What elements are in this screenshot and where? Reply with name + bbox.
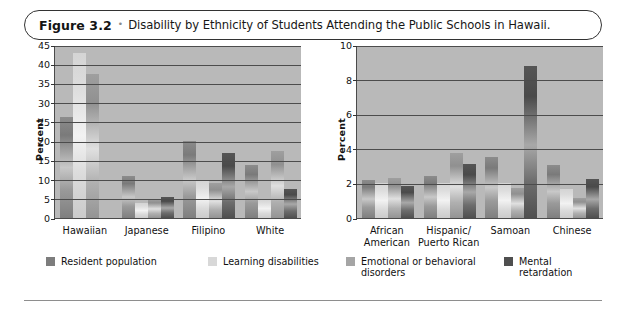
axis-tick — [51, 180, 55, 181]
y-axis-tick-label: 2 — [326, 180, 352, 190]
gridline — [357, 149, 603, 150]
figure-separator-dot: • — [118, 19, 123, 29]
chart-left-y-ticks: 051015202530354045 — [22, 46, 50, 251]
gridline — [55, 122, 301, 123]
axis-tick — [353, 46, 357, 47]
bar — [463, 164, 476, 218]
y-axis-tick-label: 40 — [24, 60, 50, 70]
bottom-divider — [24, 300, 602, 301]
bar-group — [117, 46, 179, 218]
bar — [547, 165, 560, 218]
y-axis-tick-label: 6 — [326, 110, 352, 120]
gridline — [357, 80, 603, 81]
bar — [498, 183, 511, 218]
bar — [209, 183, 222, 218]
bar — [161, 197, 174, 218]
bar — [135, 203, 148, 218]
gridline — [55, 46, 301, 47]
bar — [560, 189, 573, 218]
bar — [86, 74, 99, 218]
legend-item-emotional-behavioral-disorders: Emotional or behavioral disorders — [346, 256, 496, 278]
axis-tick — [353, 149, 357, 150]
bar — [73, 53, 86, 218]
bar — [401, 186, 414, 218]
axis-tick — [51, 219, 55, 220]
gridline — [55, 180, 301, 181]
gridline — [55, 84, 301, 85]
bar — [258, 199, 271, 218]
legend-swatch-icon — [504, 257, 513, 266]
legend-label: Emotional or behavioral disorders — [361, 256, 476, 278]
axis-tick — [353, 184, 357, 185]
bar — [485, 157, 498, 218]
chart-left-plot-area — [54, 46, 301, 219]
axis-tick — [51, 199, 55, 200]
y-axis-tick-label: 10 — [326, 41, 352, 51]
y-axis-tick-label: 8 — [326, 76, 352, 86]
axis-tick — [353, 115, 357, 116]
y-axis-tick-label: 15 — [24, 157, 50, 167]
gridline — [55, 142, 301, 143]
bar — [524, 66, 537, 218]
legend-item-mental-retardation: Mental retardation — [504, 256, 606, 278]
bar — [586, 179, 599, 218]
legend-label: Learning disabilities — [223, 256, 319, 267]
bar-group — [542, 46, 604, 218]
legend-swatch-icon — [46, 257, 55, 266]
legend-swatch-icon — [346, 257, 355, 266]
y-axis-tick-label: 0 — [24, 214, 50, 224]
bar — [375, 183, 388, 218]
chart-left-bars — [55, 46, 301, 218]
bar — [122, 176, 135, 218]
legend-label: Resident population — [61, 256, 157, 267]
chart-right: Percent 0246810 African AmericanHispanic… — [324, 46, 614, 251]
y-axis-tick-label: 20 — [24, 137, 50, 147]
bar — [60, 117, 73, 218]
chart-left: Percent 051015202530354045 HawaiianJapan… — [22, 46, 312, 251]
gridline — [55, 65, 301, 66]
bar — [148, 199, 161, 218]
y-axis-tick-label: 10 — [24, 176, 50, 186]
bar — [284, 189, 297, 218]
chart-right-plot-area — [356, 46, 603, 219]
y-axis-tick-label: 0 — [326, 214, 352, 224]
bar-group — [357, 46, 419, 218]
chart-legend: Resident population Learning disabilitie… — [46, 256, 606, 290]
y-axis-tick-label: 30 — [24, 99, 50, 109]
figure-caption: Figure 3.2 • Disability by Ethnicity of … — [24, 10, 602, 40]
bar-group — [55, 46, 117, 218]
gridline — [55, 103, 301, 104]
figure-number: Figure 3.2 — [39, 18, 112, 33]
axis-tick — [51, 103, 55, 104]
bar — [573, 198, 586, 218]
bar-group — [481, 46, 543, 218]
gridline — [55, 199, 301, 200]
y-axis-tick-label: 5 — [24, 195, 50, 205]
charts-container: Percent 051015202530354045 HawaiianJapan… — [0, 46, 625, 251]
figure-caption-text: Disability by Ethnicity of Students Atte… — [128, 18, 550, 32]
axis-tick — [51, 65, 55, 66]
axis-tick — [51, 122, 55, 123]
legend-item-resident-population: Resident population — [46, 256, 157, 267]
gridline — [357, 46, 603, 47]
legend-swatch-icon — [208, 257, 217, 266]
legend-item-learning-disabilities: Learning disabilities — [208, 256, 319, 267]
bar-group — [179, 46, 241, 218]
bar — [424, 176, 437, 218]
chart-right-bars — [357, 46, 603, 218]
chart-right-y-ticks: 0246810 — [324, 46, 352, 251]
x-axis-category-label: White — [231, 225, 309, 237]
gridline — [357, 184, 603, 185]
axis-tick — [51, 46, 55, 47]
y-axis-tick-label: 25 — [24, 118, 50, 128]
legend-label: Mental retardation — [519, 256, 606, 278]
bar-group — [240, 46, 302, 218]
bar — [362, 180, 375, 218]
bar — [222, 153, 235, 218]
bar — [245, 165, 258, 218]
axis-tick — [51, 84, 55, 85]
bar — [511, 188, 524, 218]
bar — [450, 153, 463, 218]
y-axis-tick-label: 35 — [24, 80, 50, 90]
bar-group — [419, 46, 481, 218]
